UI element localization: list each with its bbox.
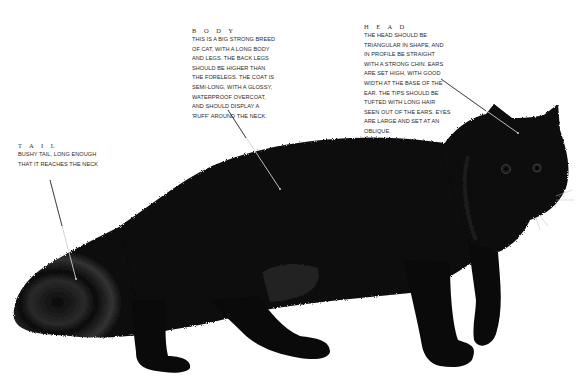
cat-hind-leg [132, 296, 330, 373]
cat-anatomy-diagram: H E A D THE HEAD SHOULD BE TRIANGULAR IN… [0, 0, 588, 387]
body-description: THIS IS A BIG STRONG BREED OF CAT, WITH … [192, 35, 297, 121]
body-title: B O D Y [192, 27, 297, 35]
tail-title: T A I L [18, 142, 128, 150]
tail-annotation: T A I L BUSHY TAIL, LONG ENOUGH THAT IT … [18, 142, 128, 169]
head-description: THE HEAD SHOULD BE TRIANGULAR IN SHAPE, … [364, 31, 476, 137]
tail-description: BUSHY TAIL, LONG ENOUGH THAT IT REACHES … [18, 150, 128, 169]
body-annotation: B O D Y THIS IS A BIG STRONG BREED OF CA… [192, 27, 297, 121]
head-title: H E A D [364, 23, 476, 31]
head-annotation: H E A D THE HEAD SHOULD BE TRIANGULAR IN… [364, 23, 476, 137]
